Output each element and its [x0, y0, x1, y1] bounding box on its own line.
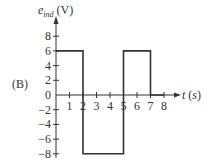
y-tick-label: −4	[38, 117, 51, 131]
y-axis-label: eind (V)	[38, 3, 73, 19]
x-tick-label: 6	[134, 99, 140, 113]
y-tick-label: 4	[45, 59, 51, 73]
x-tick-label: 4	[107, 99, 113, 113]
y-tick-label: −6	[38, 132, 51, 146]
x-tick-label: 3	[94, 99, 100, 113]
x-tick-label: 7	[148, 99, 154, 113]
x-tick-label: 8	[161, 99, 167, 113]
x-axis-label: t (s)	[182, 88, 201, 102]
y-tick-label: 2	[45, 73, 51, 87]
y-tick-label: 0	[45, 88, 51, 102]
y-tick-label: −8	[38, 147, 51, 161]
panel-label: (B)	[12, 77, 28, 91]
y-tick-label: 6	[45, 44, 51, 58]
x-axis-arrow-icon	[174, 93, 181, 98]
chart: 86420−2−4−6−812345678eind (V)t (s)(B)	[0, 0, 216, 165]
y-tick-label: −2	[38, 103, 51, 117]
y-tick-label: 8	[45, 29, 51, 43]
y-axis-arrow-icon	[54, 16, 59, 24]
x-tick-label: 1	[67, 99, 73, 113]
